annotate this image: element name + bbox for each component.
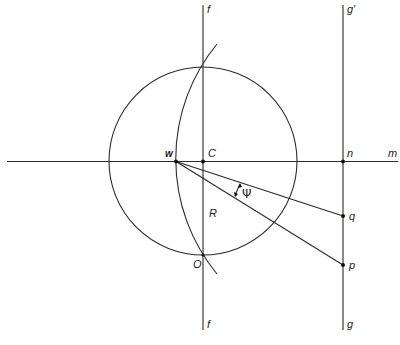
geometry-diagram: f f g' g m w C n R O q p Ψ bbox=[0, 0, 400, 345]
ray-w-q bbox=[176, 162, 343, 217]
label-R: R bbox=[209, 207, 217, 219]
ray-w-p bbox=[176, 162, 343, 266]
label-g: g bbox=[347, 318, 354, 330]
point-w bbox=[174, 160, 178, 164]
label-f-top: f bbox=[207, 3, 211, 15]
arc-through-w bbox=[176, 44, 217, 274]
label-O: O bbox=[193, 258, 202, 270]
label-C: C bbox=[208, 147, 216, 159]
label-n: n bbox=[347, 147, 353, 159]
point-p bbox=[341, 263, 345, 267]
label-psi: Ψ bbox=[242, 187, 251, 201]
point-O bbox=[201, 253, 204, 256]
point-C bbox=[201, 160, 205, 164]
point-q bbox=[341, 214, 345, 218]
label-w: w bbox=[165, 148, 174, 159]
point-n bbox=[341, 160, 345, 164]
label-q: q bbox=[349, 210, 356, 222]
label-m: m bbox=[388, 147, 397, 159]
label-g-prime: g' bbox=[347, 3, 356, 15]
label-f-bottom: f bbox=[207, 318, 211, 330]
label-p: p bbox=[348, 259, 355, 271]
